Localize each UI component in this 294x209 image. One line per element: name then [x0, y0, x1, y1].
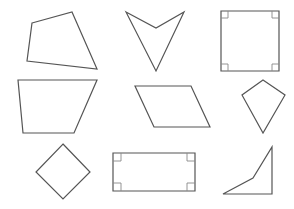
irregular-quadrilateral: [27, 12, 97, 69]
concave-dart: [126, 12, 184, 71]
kite: [242, 80, 285, 133]
rotated-square-rhombus: [36, 144, 90, 199]
right-angle-marker-icon: [113, 183, 121, 191]
right-angle-marker-icon: [187, 153, 195, 161]
rectangle: [113, 153, 195, 191]
right-angle-marker-icon: [272, 11, 279, 18]
right-angle-marker-icon: [221, 11, 228, 18]
concave-quadrilateral: [223, 147, 272, 194]
parallelogram: [135, 86, 210, 127]
right-angle-marker-icon: [272, 64, 279, 71]
right-angle-marker-icon: [187, 183, 195, 191]
trapezoid: [18, 80, 97, 133]
square: [221, 11, 279, 71]
right-angle-marker-icon: [113, 153, 121, 161]
right-angle-markers: [113, 11, 279, 191]
shapes-diagram: [0, 0, 294, 209]
right-angle-marker-icon: [221, 64, 228, 71]
